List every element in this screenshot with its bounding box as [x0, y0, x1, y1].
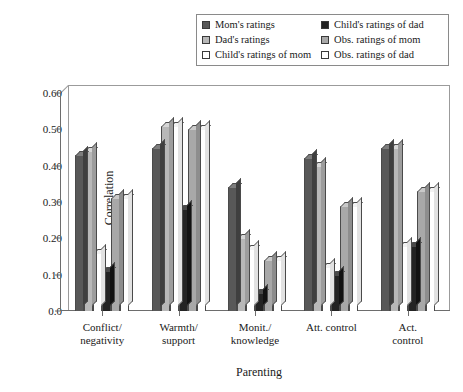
legend-columns: Mom's ratingsDad's ratingsChild's rating…	[202, 18, 443, 62]
x-tick-mark-2	[179, 311, 180, 316]
bar-side-face	[389, 139, 394, 307]
legend-swatch-moms-ratings	[202, 21, 210, 29]
bar-side-face	[205, 120, 210, 306]
bar-side-face	[160, 139, 165, 307]
bar-3-1[interactable]	[228, 187, 237, 311]
bar-side-face	[416, 237, 421, 306]
bar-5-1[interactable]	[381, 148, 390, 312]
bar-group-2	[152, 85, 206, 311]
bar-side-face	[281, 251, 286, 306]
legend-item-obs-ratings-of-dad[interactable]: Obs. ratings of dad	[321, 48, 424, 62]
bar-side-face	[272, 251, 277, 306]
x-category-label-5: Act. control	[387, 321, 429, 347]
bar-side-face	[245, 229, 250, 306]
legend-item-dads-ratings[interactable]: Dad's ratings	[202, 33, 311, 47]
legend-item-childs-ratings-of-mom[interactable]: Child's ratings of mom	[202, 48, 311, 62]
bar-2-1[interactable]	[152, 148, 161, 312]
x-axis-label: Parenting	[236, 365, 282, 380]
x-category-label-1: Conflict/ negativity	[80, 321, 124, 347]
bar-side-face	[330, 258, 335, 306]
legend-item-childs-ratings-of-dad[interactable]: Child's ratings of dad	[321, 18, 424, 32]
legend-swatch-childs-ratings-of-mom	[202, 51, 210, 59]
legend-item-obs-ratings-of-mom[interactable]: Obs. ratings of mom	[321, 33, 424, 47]
x-category-label-3: Monit./ knowledge	[231, 321, 279, 347]
x-tick-mark-5	[408, 311, 409, 316]
bar-side-face	[339, 266, 344, 306]
legend-swatch-dads-ratings	[202, 36, 210, 44]
legend-swatch-obs-ratings-of-dad	[321, 51, 329, 59]
legend-column-1: Mom's ratingsDad's ratingsChild's rating…	[202, 18, 311, 62]
legend-swatch-obs-ratings-of-mom	[321, 36, 329, 44]
x-category-label-2: Warmth/ support	[159, 321, 197, 347]
legend-column-2: Child's ratings of dadObs. ratings of mo…	[321, 18, 424, 62]
bar-series-container	[68, 85, 450, 311]
bar-side-face	[254, 240, 259, 306]
legend-label-obs-ratings-of-mom: Obs. ratings of mom	[334, 33, 420, 47]
bar-side-face	[407, 237, 412, 306]
bar-side-face	[101, 244, 106, 306]
legend-label-childs-ratings-of-mom: Child's ratings of mom	[215, 48, 311, 62]
bar-side-face	[425, 182, 430, 306]
x-tick-mark-4	[331, 311, 332, 316]
legend-swatch-childs-ratings-of-dad	[321, 21, 329, 29]
legend-label-childs-ratings-of-dad: Child's ratings of dad	[334, 18, 424, 32]
plot-area: 0.00.100.200.300.400.500.60 Correlation …	[68, 85, 450, 311]
bar-group-5	[381, 85, 435, 311]
bar-side-face	[119, 189, 124, 306]
legend-label-moms-ratings: Mom's ratings	[215, 18, 275, 32]
bar-side-face	[398, 139, 403, 307]
bar-side-face	[187, 200, 192, 306]
bar-side-face	[83, 146, 88, 306]
bar-side-face	[357, 197, 362, 306]
x-tick-mark-3	[255, 311, 256, 316]
legend-label-obs-ratings-of-dad: Obs. ratings of dad	[334, 48, 414, 62]
bar-4-1[interactable]	[304, 158, 313, 311]
bar-side-face	[92, 142, 97, 306]
bar-side-face	[434, 182, 439, 306]
bar-group-1	[75, 85, 129, 311]
y-axis-line	[60, 93, 61, 311]
bar-side-face	[348, 197, 353, 306]
bar-side-face	[128, 189, 133, 306]
chart-legend: Mom's ratingsDad's ratingsChild's rating…	[196, 14, 449, 66]
bar-side-face	[178, 117, 183, 306]
bar-side-face	[312, 149, 317, 306]
x-category-label-4: Att. control	[306, 321, 357, 334]
bar-group-3	[228, 85, 282, 311]
x-tick-mark-1	[102, 311, 103, 316]
legend-item-moms-ratings[interactable]: Mom's ratings	[202, 18, 311, 32]
bar-side-face	[321, 157, 326, 306]
legend-label-dads-ratings: Dad's ratings	[215, 33, 270, 47]
bar-side-face	[236, 178, 241, 306]
bar-side-face	[110, 262, 115, 306]
chart-page: Mom's ratingsDad's ratingsChild's rating…	[0, 0, 463, 392]
bar-1-1[interactable]	[75, 155, 84, 311]
bar-side-face	[196, 120, 201, 306]
bar-group-4	[304, 85, 358, 311]
bar-side-face	[169, 117, 174, 306]
